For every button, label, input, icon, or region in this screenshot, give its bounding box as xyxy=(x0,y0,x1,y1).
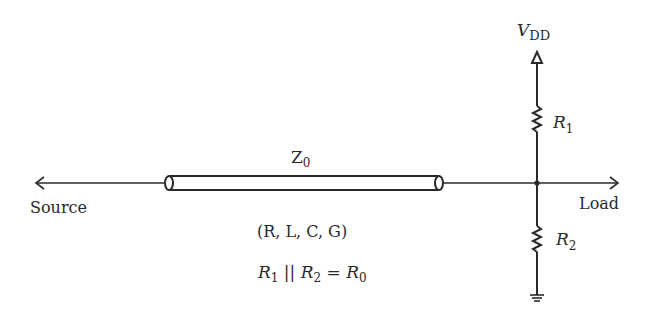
circuit-diagram: VDD R1 R2 Z0 Source Load (R, L, C, G) R1… xyxy=(0,0,653,319)
z0-label: Z0 xyxy=(291,147,310,170)
r2-resistor-icon xyxy=(533,226,541,252)
transmission-line-icon xyxy=(165,176,443,190)
source-label: Source xyxy=(30,198,87,217)
equation-label: R1 || R2 = R0 xyxy=(257,262,367,285)
vdd-arrow-icon xyxy=(532,52,542,63)
r1-resistor-icon xyxy=(533,106,541,132)
r2-label: R2 xyxy=(555,229,576,253)
vdd-label: VDD xyxy=(517,20,550,43)
r1-label: R1 xyxy=(552,112,573,136)
ground-icon xyxy=(530,295,544,301)
load-label: Load xyxy=(579,194,619,213)
line-params-label: (R, L, C, G) xyxy=(257,222,347,241)
junction-dot xyxy=(535,181,539,185)
